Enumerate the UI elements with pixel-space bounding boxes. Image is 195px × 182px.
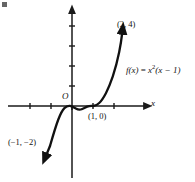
annotation-point-1-0: (1, 0) xyxy=(88,112,106,121)
equation-equals: = xyxy=(141,65,146,75)
annotation-point-2-4: (2, 4) xyxy=(117,20,135,29)
function-curve xyxy=(50,33,122,146)
origin-label: O xyxy=(62,92,69,101)
plot-area xyxy=(0,0,195,182)
x-axis-label: x xyxy=(151,99,155,108)
annotation-point-neg1-neg2: (−1, −2) xyxy=(8,138,36,147)
equation-label: f(x) = x2(x − 1) xyxy=(126,64,180,75)
curve-lower-arrow xyxy=(47,146,51,155)
equation-function-name: f(x) xyxy=(126,65,139,75)
function-graph-figure: (2, 4) (1, 0) (−1, −2) O x f(x) = x2(x −… xyxy=(0,0,195,182)
equation-factor: (x − 1) xyxy=(155,65,180,75)
